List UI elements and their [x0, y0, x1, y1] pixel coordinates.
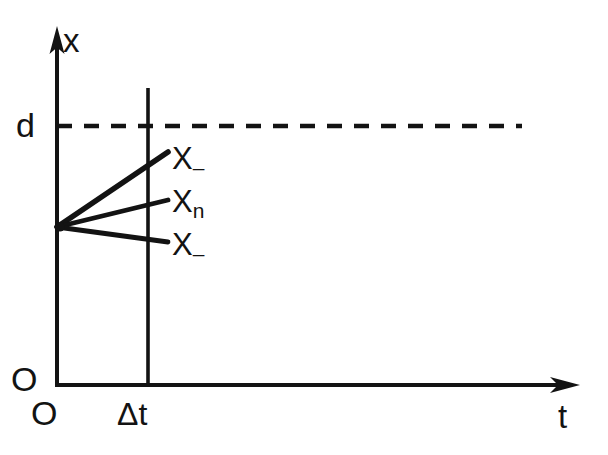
trajectory-label-middle-base: X: [172, 184, 193, 219]
trajectory-label-middle: Xn: [172, 186, 204, 221]
trajectory-label-lower: X–: [172, 229, 204, 264]
origin-label-lower: O: [31, 396, 57, 430]
trajectory-label-upper-base: X: [172, 141, 193, 176]
x-axis-label: x: [63, 24, 80, 57]
trajectory-fan-origin-node: [55, 222, 64, 231]
trajectory-line-lower: [57, 227, 168, 242]
figure-canvas: x t d O O Δt X– Xn X–: [0, 0, 608, 455]
origin-label-upper: O: [11, 362, 37, 396]
figure-drawing: [0, 0, 608, 455]
trajectory-label-middle-subscript: n: [193, 199, 205, 222]
delta-t-label: Δt: [117, 398, 147, 430]
trajectory-label-lower-base: X: [172, 227, 193, 262]
trajectory-label-upper-subscript: –: [193, 156, 205, 179]
t-axis-label: t: [558, 400, 567, 433]
trajectory-label-upper: X–: [172, 143, 204, 178]
trajectory-label-lower-subscript: –: [193, 242, 205, 265]
threshold-label-d: d: [16, 108, 35, 142]
